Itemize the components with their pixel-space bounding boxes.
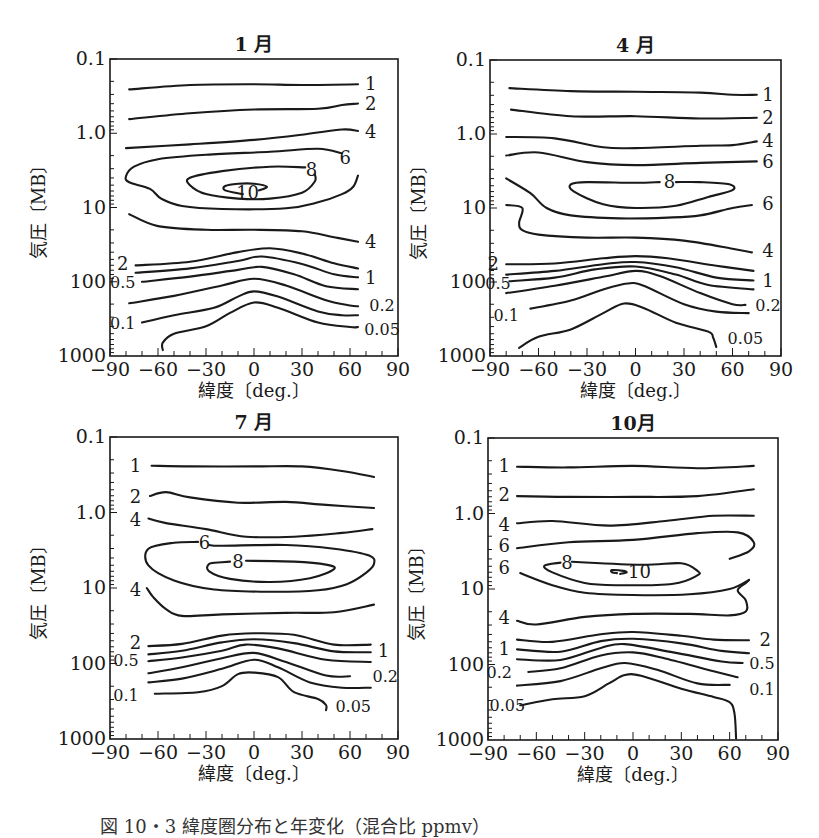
y-tick-label: 0.1 <box>76 47 106 69</box>
contour-label: 2 <box>130 486 141 507</box>
contour-label: 1 <box>762 270 773 291</box>
x-tick-label: −60 <box>518 358 558 380</box>
contour-line-0p05 <box>519 303 716 348</box>
contour-label: 2 <box>498 484 509 505</box>
contour-label: 0.2 <box>487 663 512 682</box>
x-tick-label: −30 <box>186 741 226 763</box>
contour-label: 8 <box>306 159 317 180</box>
y-tick-label: 1.0 <box>456 122 486 144</box>
contour-label: 2 <box>759 629 770 650</box>
contour-label: 4 <box>130 509 141 530</box>
contour-label: 1 <box>130 455 141 476</box>
y-tick-label: 100 <box>70 270 106 292</box>
y-tick-label: 100 <box>450 270 486 292</box>
x-tick-label: −60 <box>138 741 178 763</box>
y-tick-label: 1.0 <box>76 501 106 523</box>
contour-line-0p05 <box>162 302 358 350</box>
contour-label: 6 <box>498 535 509 556</box>
contour-line-2 <box>150 492 374 508</box>
x-tick-label: 60 <box>338 358 362 380</box>
x-tick-label: 90 <box>769 358 793 380</box>
contour-label: 4 <box>498 607 509 628</box>
y-tick-label: 10 <box>460 577 484 599</box>
contour-label: 6 <box>199 532 210 553</box>
panel-october: 10月 0.11.0101001000−90−60−300306090緯度〔de… <box>406 412 790 785</box>
x-axis-label: 緯度〔deg.〕 <box>580 380 691 401</box>
contour-line-2 <box>506 256 753 271</box>
contour-label: 8 <box>561 552 572 573</box>
contour-line-8 <box>569 182 734 208</box>
contour-label: 0.5 <box>113 651 138 670</box>
y-tick-label: 10 <box>82 196 106 218</box>
y-axis-label: 気圧〔MB〕 <box>406 537 427 641</box>
x-tick-label: 30 <box>290 741 314 763</box>
x-tick-label: −60 <box>516 742 556 764</box>
contour-label: 0.05 <box>490 696 526 715</box>
x-axis-label: 緯度〔deg.〕 <box>577 764 688 785</box>
x-tick-label: 0 <box>627 742 639 764</box>
x-tick-label: 90 <box>766 742 790 764</box>
panel-april: 4 月 0.11.0101001000−90−60−300306090緯度〔de… <box>408 34 793 401</box>
y-axis-label: 気圧〔MB〕 <box>28 536 49 640</box>
contour-label: 6 <box>762 151 773 172</box>
contour-label: 6 <box>762 193 773 214</box>
contour-line-1 <box>148 639 370 654</box>
x-tick-label: 90 <box>386 741 410 763</box>
y-axis-label: 気圧〔MB〕 <box>28 156 49 260</box>
contour-label: 2 <box>762 107 773 128</box>
contour-label: 8 <box>664 171 675 192</box>
y-tick-label: 10 <box>82 576 106 598</box>
x-tick-label: 30 <box>669 742 693 764</box>
contour-line-6 <box>145 542 374 592</box>
x-tick-label: 60 <box>720 358 744 380</box>
contour-label: 4 <box>130 579 141 600</box>
plot-frame <box>110 437 398 739</box>
contour-line-4 <box>148 519 372 538</box>
contour-label: 0.1 <box>113 686 138 705</box>
x-tick-label: −30 <box>567 358 607 380</box>
panel-title: 7 月 <box>235 411 274 433</box>
contour-label: 2 <box>117 253 128 274</box>
contour-label: 0.5 <box>110 273 135 292</box>
panel-title: 1 月 <box>235 33 274 55</box>
x-tick-label: 60 <box>338 741 362 763</box>
contour-label: 0.05 <box>335 697 371 716</box>
x-tick-label: 30 <box>290 358 314 380</box>
contour-label: 1 <box>378 640 389 661</box>
contour-line-4 <box>129 214 358 242</box>
contour-label: 2 <box>365 93 376 114</box>
contour-line-4 <box>126 129 358 148</box>
x-axis-label: 緯度〔deg.〕 <box>198 380 309 401</box>
y-tick-label: 0.1 <box>456 48 486 70</box>
contour-line-0p5 <box>517 644 743 663</box>
panel-january: 1 月 0.11.0101001000−90−60−300306090緯度〔de… <box>28 33 410 401</box>
contour-label: 0.2 <box>369 296 394 315</box>
contour-label: 0.2 <box>755 296 780 315</box>
x-tick-label: 60 <box>718 742 742 764</box>
contour-label: 0.1 <box>110 314 135 333</box>
contour-line-2 <box>129 104 358 120</box>
panel-july: 7 月 0.11.0101001000−90−60−300306090緯度〔de… <box>28 411 410 784</box>
contour-line-0p2 <box>129 279 358 307</box>
contour-line-2 <box>517 489 754 497</box>
y-tick-label: 1.0 <box>454 502 484 524</box>
contour-label: 8 <box>232 551 243 572</box>
contour-label: 1 <box>762 84 773 105</box>
contour-label: 10 <box>236 182 259 203</box>
x-tick-label: 0 <box>248 358 260 380</box>
x-tick-label: −30 <box>565 742 605 764</box>
y-tick-label: 1.0 <box>76 121 106 143</box>
figure-caption: 図 10・3 緯度圏分布と年変化（混合比 ppmv） <box>100 812 740 832</box>
contour-line-6 <box>506 178 752 218</box>
x-tick-label: 0 <box>629 358 641 380</box>
contour-label: 1 <box>498 638 509 659</box>
y-tick-label: 0.1 <box>76 425 106 447</box>
x-tick-label: −90 <box>468 742 508 764</box>
contour-line-8 <box>207 561 335 582</box>
contour-line-2 <box>511 110 757 119</box>
panel-title: 10月 <box>610 412 655 434</box>
x-axis-label: 緯度〔deg.〕 <box>198 763 309 784</box>
contour-label: 0.5 <box>485 274 510 293</box>
x-tick-label: −90 <box>470 358 510 380</box>
